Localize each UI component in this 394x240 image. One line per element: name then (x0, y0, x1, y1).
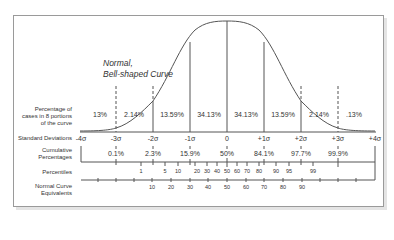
nce-label: 60 (243, 184, 249, 190)
nce-label: 30 (187, 184, 193, 190)
portion-value: .13% (346, 111, 362, 119)
percentile-label: 70 (244, 168, 250, 174)
sigma-label: +3σ (332, 135, 344, 143)
portion-value: 34.13% (234, 111, 258, 119)
nce-label: 50 (224, 184, 230, 190)
portion-value: 13% (93, 111, 107, 119)
sigma-label: -1σ (185, 135, 196, 143)
label-percentage-cases-2: cases in 8 portions (22, 113, 72, 120)
label-nce-2: Equivalents (41, 190, 72, 197)
percentile-label: 50 (224, 168, 230, 174)
curve-title-line1: Normal, (103, 58, 133, 68)
portion-value: 34.13% (197, 111, 221, 119)
sigma-label: -2σ (148, 135, 159, 143)
label-standard-deviations: Standard Deviations (18, 135, 72, 142)
nce-label: 90 (299, 184, 305, 190)
label-cumulative-1: Cumulative (42, 147, 72, 154)
portion-value: 2.14% (124, 111, 144, 119)
label-cumulative-2: Percentages (38, 154, 72, 161)
cumulative-value: 15.9% (180, 150, 200, 158)
portion-value: 13.59% (271, 111, 295, 119)
nce-label: 40 (205, 184, 211, 190)
sigma-label: +2σ (295, 135, 307, 143)
percentile-label: 99 (310, 168, 316, 174)
percentile-label: 90 (273, 168, 279, 174)
cumulative-value: 50% (220, 150, 234, 158)
percentile-label: 10 (175, 168, 181, 174)
nce-label: 20 (168, 184, 174, 190)
curve-title-line2: Bell-shaped Curve (103, 69, 173, 79)
percentile-label: 40 (214, 168, 220, 174)
label-percentiles: Percentiles (42, 169, 72, 176)
cumulative-value: 0.1% (108, 150, 124, 158)
percentile-label: 60 (234, 168, 240, 174)
cumulative-value: 99.9% (328, 150, 348, 158)
portion-value: 2.14% (309, 111, 329, 119)
percentile-label: 20 (194, 168, 200, 174)
sigma-label: -4σ (76, 135, 87, 143)
percentile-label: 80 (256, 168, 262, 174)
cumulative-value: 84.1% (254, 150, 274, 158)
label-nce-1: Normal Curve (35, 183, 72, 190)
percentile-label: 5 (163, 168, 166, 174)
percentile-label: 30 (204, 168, 210, 174)
nce-label: 80 (280, 184, 286, 190)
label-percentage-cases-3: of the curve (41, 120, 72, 127)
cumulative-value: 2.3% (145, 150, 161, 158)
sigma-label: -3σ (111, 135, 122, 143)
label-percentage-cases-1: Percentage of (35, 106, 72, 113)
portion-value: 13.59% (160, 111, 184, 119)
sigma-label: +1σ (258, 135, 270, 143)
cumulative-value: 97.7% (291, 150, 311, 158)
sigma-label: +4σ (369, 135, 381, 143)
percentile-label: 95 (286, 168, 292, 174)
nce-label: 10 (149, 184, 155, 190)
nce-label: 70 (261, 184, 267, 190)
percentile-label: 1 (139, 168, 142, 174)
sigma-label: 0 (225, 135, 229, 143)
